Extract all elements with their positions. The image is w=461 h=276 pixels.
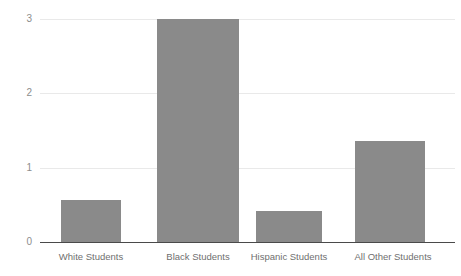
- x-tick-label-all-other-students: All Other Students: [344, 252, 442, 262]
- bar-all-other-students[interactable]: [355, 141, 425, 242]
- bar-white-students[interactable]: [61, 200, 121, 242]
- x-tick-label-hispanic-students: Hispanic Students: [243, 252, 335, 262]
- bar-chart: 3 2 1 0 White Students Black Students Hi…: [0, 0, 461, 276]
- x-tick-label-white-students: White Students: [45, 252, 137, 262]
- bar-series: [0, 0, 461, 276]
- bar-black-students[interactable]: [157, 19, 239, 242]
- x-tick-label-black-students: Black Students: [152, 252, 244, 262]
- bar-hispanic-students[interactable]: [256, 211, 322, 242]
